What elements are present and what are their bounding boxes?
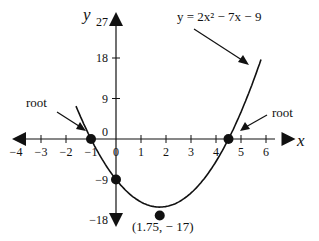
- equation-arrowhead: [238, 55, 249, 65]
- point-root-left: [86, 134, 96, 144]
- equation-label: y = 2x² − 7x − 9: [177, 9, 261, 24]
- y-tick-label: 0: [102, 125, 108, 139]
- y-tick-label: 9: [102, 92, 108, 106]
- y-axis-arrow-up: [109, 12, 123, 26]
- x-axis-arrow-right: [282, 132, 296, 146]
- equation-arrow: [194, 29, 245, 62]
- x-axis-arrow-left: [12, 132, 26, 146]
- x-tick-label: 3: [188, 145, 194, 159]
- x-tick-label: 2: [163, 145, 169, 159]
- point-y-intercept: [111, 175, 121, 185]
- chart: xy −4−3−2−10123456271890−9−18 y = 2x² − …: [0, 0, 319, 241]
- root-left-label: root: [26, 95, 47, 110]
- ticks: −4−3−2−10123456271890−9−18: [10, 15, 269, 227]
- x-tick-label: 5: [238, 145, 244, 159]
- vertex-label: (1.75, − 17): [132, 219, 194, 234]
- y-axis-arrow-down: [109, 213, 123, 227]
- x-tick-label: 0: [113, 145, 119, 159]
- root-right-arrowhead: [240, 122, 250, 131]
- x-tick-label: −3: [35, 145, 48, 159]
- y-tick-label: 18: [96, 51, 108, 65]
- annotations: y = 2x² − 7x − 9rootroot(1.75, − 17): [26, 9, 293, 234]
- x-tick-label: −2: [60, 145, 73, 159]
- root-right-label: root: [272, 105, 293, 120]
- point-root-right: [224, 134, 234, 144]
- x-axis-label: x: [296, 131, 305, 150]
- axes: xy: [12, 5, 305, 227]
- y-tick-label: −18: [89, 213, 108, 227]
- y-axis-label: y: [81, 5, 91, 24]
- y-tick-label: 27: [96, 15, 108, 29]
- x-tick-label: 6: [263, 145, 269, 159]
- y-tick-label: −9: [95, 173, 108, 187]
- x-tick-label: 1: [138, 145, 144, 159]
- x-tick-label: −4: [10, 145, 23, 159]
